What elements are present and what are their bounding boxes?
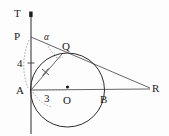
t-arrow-marker xyxy=(29,12,32,18)
center-point-O xyxy=(66,85,69,88)
label-alpha: α xyxy=(44,32,50,42)
angle-arc-q-interior xyxy=(53,56,63,58)
label-R: R xyxy=(152,82,160,94)
label-B: B xyxy=(100,93,107,105)
label-length-pa: 4 xyxy=(17,57,23,69)
secant-line-PQR xyxy=(31,37,150,88)
label-length-ao: 3 xyxy=(44,92,50,104)
label-O: O xyxy=(63,94,71,106)
label-T: T xyxy=(14,7,21,19)
tick-mark-aq-2 xyxy=(43,69,49,76)
geometry-canvas: T P Q A O B R α 4 3 xyxy=(0,0,169,136)
construction-arc-PA xyxy=(24,40,29,88)
geometry-figure: T P Q A O B R α 4 3 xyxy=(0,0,169,136)
label-A: A xyxy=(16,84,24,96)
diameter-line-AR xyxy=(31,89,150,90)
label-P: P xyxy=(14,30,20,42)
label-Q: Q xyxy=(62,40,70,52)
